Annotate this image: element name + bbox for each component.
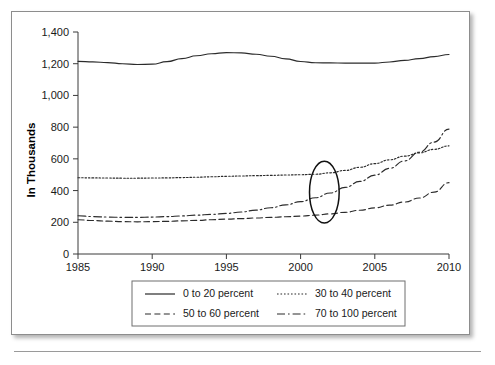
series-line	[78, 146, 449, 178]
chart-legend: 0 to 20 percent30 to 40 percent50 to 60 …	[132, 281, 405, 326]
x-tick-label: 2010	[437, 261, 461, 273]
y-tick-label: 0	[63, 248, 69, 260]
legend-label: 50 to 60 percent	[183, 307, 259, 319]
y-tick-label: 400	[51, 185, 69, 197]
y-axis-title-text: In Thousands	[25, 123, 37, 198]
legend-label: 0 to 20 percent	[183, 287, 253, 299]
y-tick-label: 200	[51, 216, 69, 228]
y-axis-ticks: 02004006008001,0001,2001,400	[41, 26, 78, 260]
figure-card: In Thousands 02004006008001,0001,2001,40…	[11, 11, 470, 335]
x-tick-label: 1990	[140, 261, 164, 273]
x-tick-label: 1985	[66, 261, 90, 273]
y-tick-label: 800	[51, 121, 69, 133]
series-line	[78, 53, 449, 65]
footer-divider	[14, 351, 481, 352]
series-line	[78, 129, 449, 217]
y-tick-label: 1,000	[41, 89, 69, 101]
x-tick-label: 2000	[288, 261, 312, 273]
y-tick-label: 600	[51, 153, 69, 165]
line-chart: In Thousands 02004006008001,0001,2001,40…	[12, 12, 469, 334]
legend-label: 70 to 100 percent	[315, 307, 397, 319]
y-axis-title: In Thousands	[25, 123, 37, 198]
screenshot-root: In Thousands 02004006008001,0001,2001,40…	[0, 0, 495, 365]
series-lines	[78, 53, 449, 222]
x-tick-label: 2005	[363, 261, 387, 273]
y-tick-label: 1,200	[41, 58, 69, 70]
y-tick-label: 1,400	[41, 26, 69, 38]
x-tick-label: 1995	[214, 261, 238, 273]
x-axis-ticks: 198519901995200020052010	[66, 254, 461, 273]
legend-label: 30 to 40 percent	[315, 287, 391, 299]
series-line	[78, 183, 449, 222]
